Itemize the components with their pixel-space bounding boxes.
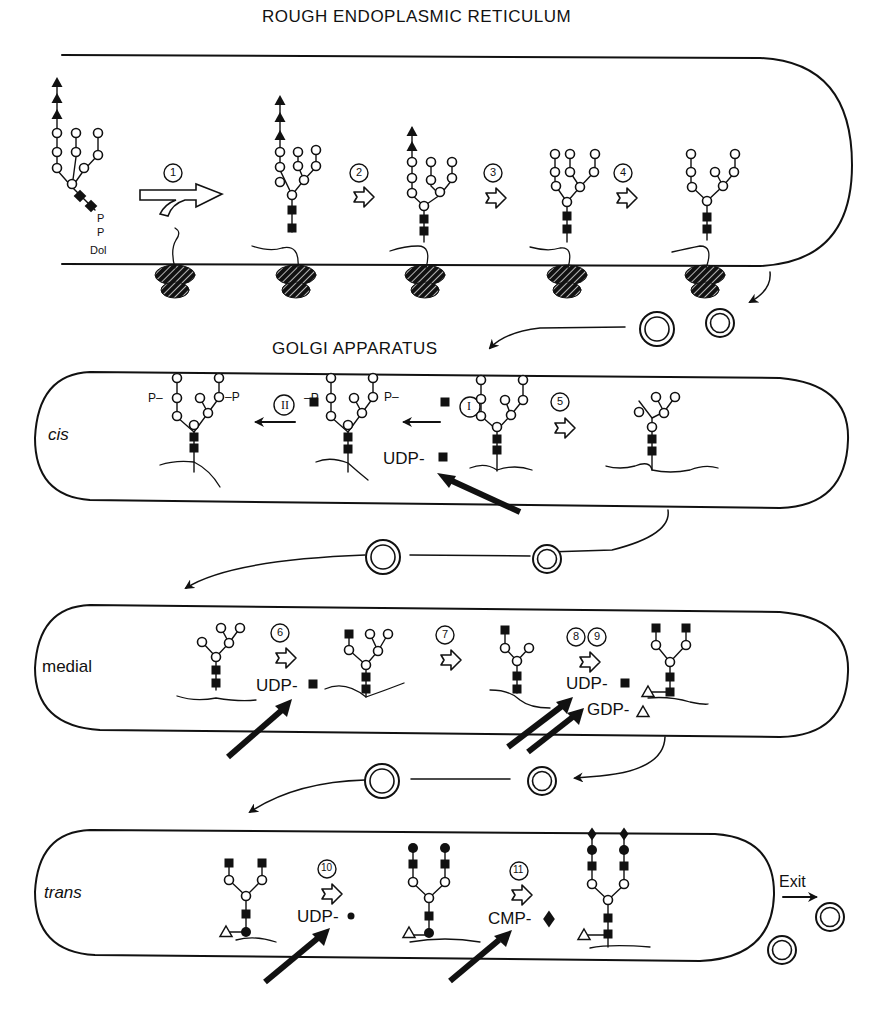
medial-label: medial bbox=[42, 658, 92, 675]
glycan-er-4 bbox=[691, 153, 735, 240]
step-7: 7 bbox=[442, 629, 448, 640]
step-1: 1 bbox=[170, 167, 176, 178]
medial-donor-udp-6: UDP- bbox=[256, 677, 298, 694]
glycan-medial-1-residues bbox=[198, 624, 245, 688]
step-4: 4 bbox=[620, 167, 626, 178]
er-ribosomes bbox=[155, 265, 725, 298]
medial-exit-arrow bbox=[575, 737, 665, 778]
step-1-arrow bbox=[140, 184, 222, 216]
cis-label: cis bbox=[48, 426, 69, 443]
er-peptide-chains bbox=[173, 228, 709, 268]
cis-1-phosphate-right: –P bbox=[225, 391, 240, 403]
glycan-cis-2-residues bbox=[327, 374, 378, 454]
medial-donor-arrow-9 bbox=[528, 708, 584, 752]
exit-label: Exit bbox=[779, 874, 806, 890]
cis-exit-arrow bbox=[548, 510, 668, 552]
medial-donor-udp-8: UDP- bbox=[566, 675, 608, 692]
glycan-er-3 bbox=[555, 153, 595, 242]
step-block-arrows-er bbox=[354, 187, 637, 208]
step-9: 9 bbox=[594, 631, 600, 642]
er-exit-arrow bbox=[750, 272, 770, 302]
glycan-er-1-residues bbox=[275, 95, 321, 233]
glycan-cis-2 bbox=[316, 378, 373, 480]
glycan-medial-4-residues bbox=[642, 624, 691, 697]
dolichol-p1: P bbox=[97, 213, 104, 224]
dolichol-p2: P bbox=[97, 227, 104, 238]
trans-donor-arrow-11 bbox=[450, 930, 512, 981]
medial-to-trans-arrow bbox=[250, 780, 365, 812]
glycan-trans-1 bbox=[229, 863, 276, 942]
cis-donor-arrow bbox=[437, 473, 520, 512]
glycan-cis-1-residues bbox=[173, 374, 224, 453]
er-to-golgi-arrow bbox=[490, 327, 625, 348]
trans-donor-arrow-10 bbox=[265, 928, 330, 982]
glycan-medial-1 bbox=[177, 628, 256, 701]
glycan-cis-3-residues bbox=[477, 376, 528, 455]
trans-donor-udp-10: UDP- bbox=[297, 908, 339, 925]
cis-1-phosphate-left: P– bbox=[148, 392, 163, 404]
glycan-medial-3 bbox=[490, 630, 550, 708]
trans-cisterna-membrane bbox=[35, 830, 774, 961]
dolichol-label: Dol bbox=[90, 245, 107, 256]
glycan-er-3-residues bbox=[551, 150, 600, 234]
glycan-processing-diagram: ROUGH ENDOPLASMIC RETICULUM GOLGI APPARA… bbox=[0, 0, 883, 1010]
glycan-trans-3-residues bbox=[578, 828, 629, 940]
step-I: I bbox=[467, 400, 471, 412]
step-11: 11 bbox=[513, 865, 523, 875]
cis-medial-path bbox=[410, 555, 530, 556]
medial-donor-arrow-6 bbox=[228, 699, 292, 757]
glycan-cis-4-residues bbox=[635, 393, 680, 456]
step-II: II bbox=[281, 399, 289, 411]
cis-donor-udp: UDP- bbox=[383, 450, 425, 467]
glycan-trans-1-residues bbox=[220, 859, 267, 938]
step-8: 8 bbox=[573, 631, 579, 642]
step-2: 2 bbox=[356, 167, 362, 178]
glycan-er-4-residues bbox=[687, 150, 740, 234]
trans-donor-cmp-11: CMP- bbox=[488, 910, 531, 927]
glycan-medial-4 bbox=[648, 628, 708, 704]
cis-to-medial-arrow bbox=[186, 555, 365, 588]
step-3: 3 bbox=[490, 167, 496, 178]
cis-2-phosphate-right: P– bbox=[384, 391, 399, 403]
glycan-dolichol-precursor bbox=[57, 80, 98, 210]
golgi-title: GOLGI APPARATUS bbox=[272, 340, 438, 357]
cis-2-phosphate-left: –P bbox=[304, 392, 319, 404]
medial-step-arrows bbox=[276, 648, 600, 672]
diagram-canvas bbox=[0, 0, 883, 1010]
cis-step-5-arrow bbox=[555, 418, 575, 438]
trans-label: trans bbox=[44, 884, 82, 901]
step-5: 5 bbox=[557, 396, 563, 407]
glycan-trans-2-residues bbox=[403, 843, 450, 938]
er-title: ROUGH ENDOPLASMIC RETICULUM bbox=[262, 8, 571, 25]
step-6: 6 bbox=[277, 627, 283, 638]
medial-cisterna-membrane bbox=[35, 605, 848, 737]
step-10: 10 bbox=[321, 863, 332, 873]
glycan-er-2-residues bbox=[407, 126, 457, 236]
medial-donor-gdp-9: GDP- bbox=[587, 701, 630, 718]
